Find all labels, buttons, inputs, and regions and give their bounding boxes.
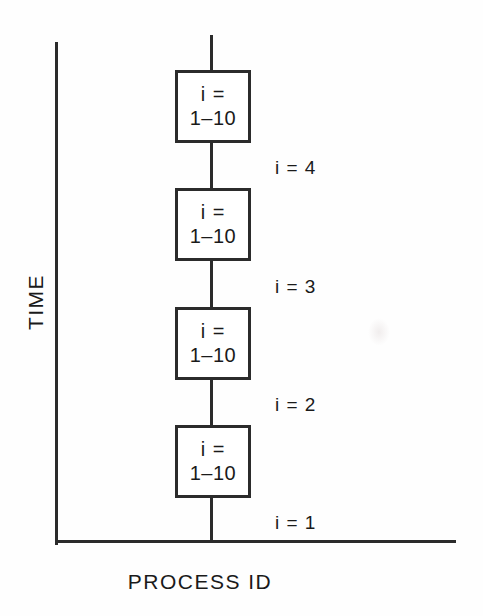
iteration-label: i = 2 <box>275 394 316 416</box>
diagram-canvas: TIME PROCESS ID i = 1–10 i = 1–10 i = 1–… <box>0 0 483 616</box>
scan-artifact <box>368 318 390 346</box>
spine-segment-3-4 <box>210 377 213 427</box>
process-box-line1: i = <box>201 83 226 107</box>
process-box[interactable]: i = 1–10 <box>175 188 251 261</box>
iteration-label: i = 1 <box>275 512 316 534</box>
spine-segment-top <box>210 35 213 73</box>
process-box-line2: 1–10 <box>190 344 237 368</box>
iteration-label: i = 4 <box>275 157 316 179</box>
process-box-line2: 1–10 <box>190 462 237 486</box>
x-axis-line <box>55 540 456 543</box>
process-box-line2: 1–10 <box>190 107 237 131</box>
process-box[interactable]: i = 1–10 <box>175 307 251 380</box>
iteration-label: i = 3 <box>275 276 316 298</box>
process-box-line1: i = <box>201 320 226 344</box>
process-box[interactable]: i = 1–10 <box>175 70 251 143</box>
spine-segment-2-3 <box>210 259 213 309</box>
y-axis-label: TIME <box>24 242 48 362</box>
y-axis-line <box>55 42 58 545</box>
process-box-line2: 1–10 <box>190 225 237 249</box>
process-box-line1: i = <box>201 201 226 225</box>
spine-segment-1-2 <box>210 140 213 190</box>
spine-segment-bottom <box>210 495 213 542</box>
process-box[interactable]: i = 1–10 <box>175 425 251 498</box>
x-axis-label: PROCESS ID <box>0 570 400 594</box>
process-box-line1: i = <box>201 438 226 462</box>
